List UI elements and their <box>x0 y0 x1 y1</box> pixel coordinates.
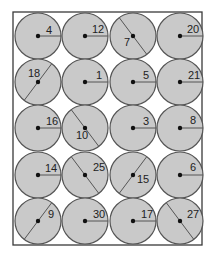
circles-group: 41272018152116103814251569301727 <box>15 13 203 244</box>
circle-label: 15 <box>137 173 149 185</box>
center-dot <box>36 126 40 130</box>
circle-label: 30 <box>93 208 105 220</box>
circle-label: 4 <box>46 24 52 36</box>
circle-label: 14 <box>45 162 57 174</box>
circle-label: 7 <box>124 36 130 48</box>
circle-label: 12 <box>92 23 104 35</box>
circle-21: 21 <box>157 59 203 105</box>
circle-8: 8 <box>157 105 203 151</box>
center-dot <box>83 80 87 84</box>
circle-grid-diagram: 41272018152116103814251569301727 <box>0 0 217 259</box>
circle-12: 12 <box>62 13 108 59</box>
circle-label: 9 <box>48 208 54 220</box>
center-dot <box>178 219 182 223</box>
circle-16: 16 <box>15 105 61 151</box>
center-dot <box>83 173 87 177</box>
circle-label: 16 <box>46 115 58 127</box>
center-dot <box>131 219 135 223</box>
center-dot <box>83 34 87 38</box>
center-dot <box>131 34 135 38</box>
circle-7: 7 <box>110 13 156 59</box>
center-dot <box>178 34 182 38</box>
center-dot <box>36 80 40 84</box>
circle-20: 20 <box>157 13 203 59</box>
center-dot <box>131 173 135 177</box>
circle-label: 6 <box>190 161 196 173</box>
circle-label: 5 <box>143 69 149 81</box>
center-dot <box>178 80 182 84</box>
circle-label: 20 <box>187 23 199 35</box>
circle-25: 25 <box>62 152 108 198</box>
circle-1: 1 <box>62 59 108 105</box>
circle-label: 27 <box>187 208 199 220</box>
circle-6: 6 <box>157 152 203 198</box>
circle-4: 4 <box>15 13 61 59</box>
center-dot <box>131 80 135 84</box>
center-dot <box>178 173 182 177</box>
circle-15: 15 <box>110 152 156 198</box>
circle-9: 9 <box>15 198 61 244</box>
circle-label: 18 <box>28 67 40 79</box>
circle-5: 5 <box>110 59 156 105</box>
circle-label: 25 <box>93 161 105 173</box>
circle-label: 17 <box>141 208 153 220</box>
circle-3: 3 <box>110 105 156 151</box>
circle-label: 21 <box>188 69 200 81</box>
circle-label: 10 <box>76 129 88 141</box>
center-dot <box>131 126 135 130</box>
circle-14: 14 <box>15 152 61 198</box>
center-dot <box>83 219 87 223</box>
circle-label: 1 <box>96 69 102 81</box>
circle-30: 30 <box>62 198 108 244</box>
circle-label: 3 <box>143 115 149 127</box>
center-dot <box>36 219 40 223</box>
circle-27: 27 <box>157 198 203 244</box>
circle-label: 8 <box>190 114 196 126</box>
circle-10: 10 <box>62 105 108 151</box>
center-dot <box>36 34 40 38</box>
center-dot <box>178 126 182 130</box>
circle-17: 17 <box>110 198 156 244</box>
circle-18: 18 <box>15 59 61 105</box>
center-dot <box>36 173 40 177</box>
